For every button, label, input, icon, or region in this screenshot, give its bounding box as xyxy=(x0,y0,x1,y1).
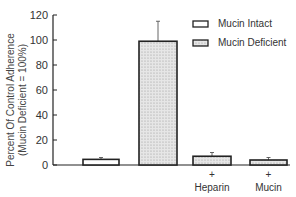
bar-rect xyxy=(139,41,177,165)
bar-rect xyxy=(250,160,287,165)
bar-rect xyxy=(83,159,119,165)
bar xyxy=(83,158,119,166)
category-labels: +Heparin+Mucin xyxy=(194,169,281,193)
legend-swatch-open xyxy=(193,21,208,27)
y-axis-title-line-2: (Mucin Deficient = 100%) xyxy=(17,44,28,156)
y-tick-label: 0 xyxy=(42,159,48,171)
category-plus: + xyxy=(266,169,272,180)
category-label: Mucin xyxy=(255,182,282,193)
y-tick-label: 20 xyxy=(36,134,48,146)
category-label: Heparin xyxy=(194,182,229,193)
y-tick-label: 120 xyxy=(30,9,48,21)
legend: Mucin Intact Mucin Deficient xyxy=(193,18,287,48)
y-tick-label: 100 xyxy=(30,34,48,46)
legend-swatch-stippled xyxy=(193,40,208,46)
y-axis-title: Percent Of Control Adherence (Mucin Defi… xyxy=(5,33,28,167)
legend-item-mucin-deficient: Mucin Deficient xyxy=(193,37,287,48)
legend-item-mucin-intact: Mucin Intact xyxy=(193,18,272,29)
category-plus: + xyxy=(209,169,215,180)
legend-label: Mucin Intact xyxy=(218,18,272,29)
bar xyxy=(250,158,287,166)
bar xyxy=(139,21,177,165)
bar xyxy=(193,153,231,166)
y-tick-label: 80 xyxy=(36,59,48,71)
bar-chart: Percent Of Control Adherence (Mucin Defi… xyxy=(0,0,296,197)
bar-rect xyxy=(193,156,231,165)
y-axis-title-line-1: Percent Of Control Adherence xyxy=(5,33,16,167)
y-tick-label: 60 xyxy=(36,84,48,96)
legend-label: Mucin Deficient xyxy=(218,37,287,48)
y-tick-label: 40 xyxy=(36,109,48,121)
